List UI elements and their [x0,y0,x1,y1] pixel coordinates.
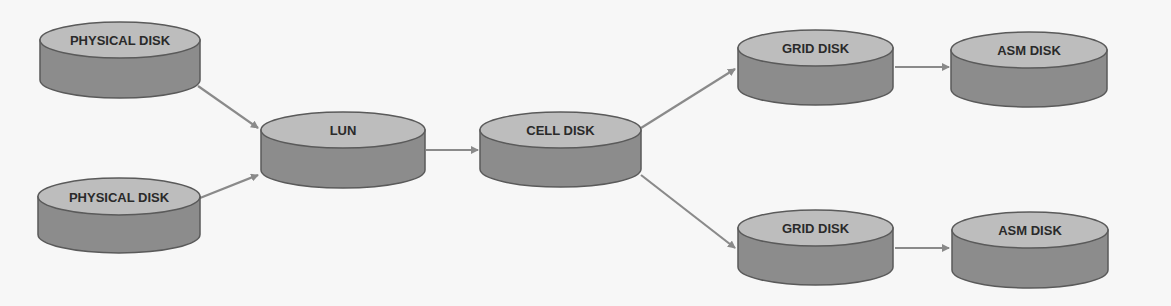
cylinder-grid-disk-1: GRID DISK [738,30,893,105]
node-label: PHYSICAL DISK [69,190,170,205]
node-label: LUN [330,123,357,138]
cylinder-asm-disk-1: ASM DISK [951,32,1107,107]
arrow-physical-disk-1-to-lun [198,86,258,128]
node-label: ASM DISK [998,223,1062,238]
cylinder-physical-disk-2: PHYSICAL DISK [38,178,200,253]
cylinder-lun: LUN [261,112,425,188]
storage-hierarchy-diagram: PHYSICAL DISKPHYSICAL DISKLUNCELL DISKGR… [0,0,1171,306]
cylinder-asm-disk-2: ASM DISK [952,212,1108,288]
node-label: ASM DISK [997,43,1061,58]
cylinder-grid-disk-2: GRID DISK [738,210,893,285]
cylinder-cell-disk: CELL DISK [480,112,641,187]
node-label: PHYSICAL DISK [70,33,171,48]
arrow-physical-disk-2-to-lun [200,175,258,198]
node-label: GRID DISK [782,221,850,236]
arrow-cell-disk-to-grid-disk-1 [641,69,735,128]
cylinder-physical-disk-1: PHYSICAL DISK [40,22,200,98]
node-label: CELL DISK [526,123,595,138]
arrow-cell-disk-to-grid-disk-2 [641,175,735,248]
node-label: GRID DISK [782,41,850,56]
